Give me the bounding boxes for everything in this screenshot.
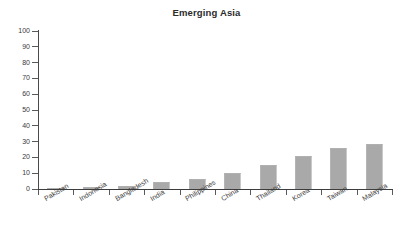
bar-korea — [295, 156, 312, 189]
y-axis-tick-label: 50 — [0, 106, 30, 113]
x-axis-tick — [73, 190, 74, 195]
y-axis-tick-label: 40 — [0, 122, 30, 129]
y-axis-tick-label-text: 90 — [4, 43, 30, 50]
x-axis-tick — [286, 190, 287, 195]
bar-china — [224, 173, 241, 189]
y-axis-tick-label-text: 70 — [4, 74, 30, 81]
y-axis-tick-label-text: 40 — [4, 122, 30, 129]
y-axis-tick-label: 60 — [0, 90, 30, 97]
x-axis-tick — [357, 190, 358, 195]
x-axis-tick — [109, 190, 110, 195]
bar-chart-figure: Emerging Asia 0102030405060708090100 Pak… — [0, 0, 413, 228]
x-axis-tick — [180, 190, 181, 195]
y-axis-tick-label: 80 — [0, 59, 30, 66]
bar-taiwan — [330, 148, 347, 189]
plot-area — [38, 31, 392, 189]
y-axis-tick-label: 90 — [0, 43, 30, 50]
y-axis-tick-label: 100 — [0, 27, 30, 34]
y-axis-tick-label-text: 50 — [4, 106, 30, 113]
y-axis-tick-label-text: 60 — [4, 90, 30, 97]
y-axis-tick-label-text: 80 — [4, 59, 30, 66]
y-axis-tick-label-text: 0 — [4, 185, 30, 192]
y-axis-tick-label-text: 30 — [4, 138, 30, 145]
y-axis-tick-label-text: 20 — [4, 153, 30, 160]
x-axis-tick — [144, 190, 145, 195]
x-axis-tick — [250, 190, 251, 195]
y-axis-tick-label: 0 — [0, 185, 30, 192]
x-axis-tick — [215, 190, 216, 195]
x-axis-tick — [38, 190, 39, 195]
y-axis-tick-label-text: 10 — [4, 169, 30, 176]
y-axis-tick-label-text: 100 — [4, 27, 30, 34]
x-axis-tick — [321, 190, 322, 195]
x-axis-tick — [392, 190, 393, 195]
bar-malaysia — [366, 144, 383, 189]
y-axis-tick-label: 30 — [0, 138, 30, 145]
chart-title: Emerging Asia — [0, 7, 413, 18]
y-axis-tick-label: 20 — [0, 153, 30, 160]
y-axis-tick-label: 10 — [0, 169, 30, 176]
y-axis-tick-label: 70 — [0, 74, 30, 81]
